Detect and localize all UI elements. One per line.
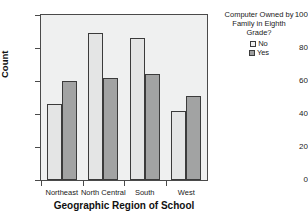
- x-axis-tick-label: South: [135, 188, 155, 197]
- bar-northeast-yes: [62, 81, 77, 180]
- legend-items: NoYes: [212, 39, 306, 57]
- legend-item-yes: Yes: [249, 48, 269, 57]
- legend-swatch-yes: [249, 50, 255, 56]
- bar-south-no: [130, 38, 145, 180]
- x-axis-tick-mark: [124, 181, 125, 186]
- chart-figure: Count 020406080100 NortheastNorth Centra…: [0, 0, 308, 222]
- legend-swatch-no: [250, 41, 256, 47]
- y-axis-title: Count: [0, 51, 10, 78]
- y-axis-tick-label: 20: [282, 143, 308, 151]
- x-axis-tick-label: North Central: [81, 188, 126, 197]
- bar-north-central-no: [88, 33, 103, 180]
- y-axis-tick-label: 40: [282, 110, 308, 118]
- plot-area: [40, 14, 208, 181]
- bar-west-no: [171, 111, 186, 180]
- x-axis-tick-mark: [41, 181, 42, 186]
- legend: Computer Owned by Family in Eighth Grade…: [212, 10, 306, 57]
- x-axis-tick-mark: [83, 181, 84, 186]
- legend-item-no: No: [250, 39, 268, 48]
- y-axis-tick-label: 60: [282, 77, 308, 85]
- x-axis-tick-label: West: [178, 188, 195, 197]
- bar-northeast-no: [47, 104, 62, 180]
- x-axis-tick-label: Northeast: [45, 188, 78, 197]
- x-axis-tick-mark: [166, 181, 167, 186]
- x-axis-title: Geographic Region of School: [40, 200, 208, 211]
- bar-north-central-yes: [103, 78, 118, 180]
- bar-south-yes: [145, 74, 160, 180]
- bar-west-yes: [186, 96, 201, 180]
- legend-label-yes: Yes: [257, 48, 269, 57]
- legend-label-no: No: [258, 39, 268, 48]
- y-axis-tick-label: 0: [282, 176, 308, 184]
- legend-title: Computer Owned by Family in Eighth Grade…: [212, 10, 306, 37]
- bars-container: [41, 15, 207, 180]
